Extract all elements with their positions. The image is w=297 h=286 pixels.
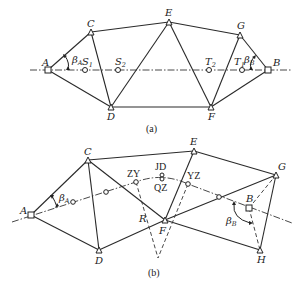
route-point-1 <box>71 200 76 205</box>
label-a-b: A <box>19 205 27 216</box>
label-zy: ZY <box>127 168 140 179</box>
label-yz: YZ <box>187 170 200 181</box>
point-s1 <box>83 68 88 73</box>
label-a: A <box>41 57 49 68</box>
label-e: E <box>164 7 173 18</box>
label-jd: JD <box>155 161 166 172</box>
station-b <box>265 67 271 73</box>
route-point-3 <box>217 195 222 200</box>
figure-a: A B C D E F G S1 S2 T2 T1 βA βB (a) <box>30 7 292 135</box>
caption-a: (a) <box>146 123 157 135</box>
label-g: G <box>237 20 245 31</box>
figure-b: A B C D E F G H ZY JD QZ YZ R βA βB (b) <box>12 136 292 279</box>
label-t2: T2 <box>205 56 216 69</box>
label-b-b: B <box>245 193 253 204</box>
station-b-b <box>246 205 252 211</box>
label-e-b: E <box>189 136 198 147</box>
route-point-2 <box>104 190 109 195</box>
label-s2: S2 <box>115 56 126 69</box>
point-yz <box>186 182 191 187</box>
label-c: C <box>87 18 95 29</box>
angle-beta-a-arc <box>63 54 70 70</box>
label-radius-r: R <box>138 213 147 224</box>
point-s2 <box>116 68 121 73</box>
station-a-b <box>28 212 34 218</box>
label-d-b: D <box>94 255 103 266</box>
label-f: F <box>207 111 216 122</box>
label-c-b: C <box>84 146 92 157</box>
label-g-b: G <box>278 161 286 172</box>
station-g-b <box>273 172 279 178</box>
label-f-b: F <box>158 225 167 236</box>
point-qz <box>160 177 164 181</box>
station-d-b <box>96 247 102 253</box>
triangulation-diagram: A B C D E F G S1 S2 T2 T1 βA βB (a) <box>0 0 297 286</box>
label-s1: S1 <box>82 56 93 69</box>
point-jd <box>160 173 164 177</box>
label-beta-a: βA <box>71 54 83 67</box>
angle-beta-a-b-arc <box>50 195 59 208</box>
station-h-b <box>257 247 263 253</box>
label-qz: QZ <box>154 182 167 193</box>
label-h-b: H <box>256 254 266 265</box>
caption-b: (b) <box>148 267 160 279</box>
label-d: D <box>106 111 115 122</box>
point-zy <box>134 180 139 185</box>
label-b: B <box>272 57 280 68</box>
label-beta-a-b: βA <box>58 192 70 205</box>
label-beta-b-b: βB <box>225 215 237 228</box>
